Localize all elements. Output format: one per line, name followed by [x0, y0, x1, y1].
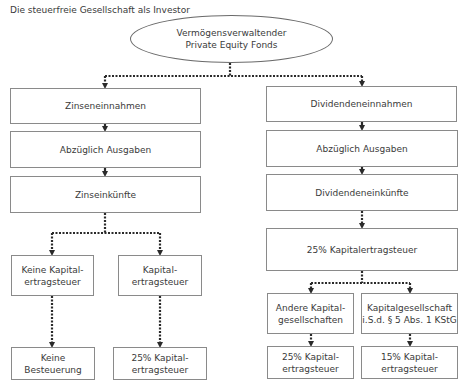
interest-expenses-box: Abzüglich Ausgaben	[10, 131, 201, 168]
other-corporations-box: Andere Kapital- gesellschaften	[267, 293, 354, 334]
root-fund-ellipse: Vermögensverwaltender Private Equity Fon…	[130, 15, 333, 63]
kstg-corporation-box: Kapitalgesellschaft i.S.d. § 5 Abs. 1 KS…	[361, 293, 458, 334]
no-taxation-box: Keine Besteuerung	[11, 347, 95, 380]
right-25pct-tax-box: 25% Kapital- ertragsteuer	[267, 346, 354, 379]
left-25pct-tax-box: 25% Kapital- ertragsteuer	[113, 347, 207, 380]
interest-income-box: Zinseneinnahmen	[10, 88, 201, 124]
dividend-expenses-box: Abzüglich Ausgaben	[266, 130, 458, 167]
no-withholding-box: Keine Kapital- ertragsteuer	[11, 255, 94, 296]
withholding-box: Kapital- ertragsteuer	[118, 255, 202, 296]
dividend-earnings-box: Dividendeneinkünfte	[266, 174, 458, 211]
dividend-withholding-box: 25% Kapitalertragsteuer	[266, 228, 458, 271]
dividend-income-box: Dividendeneinnahmen	[266, 86, 457, 122]
interest-earnings-box: Zinseinkünfte	[10, 176, 201, 213]
right-15pct-tax-box: 15% Kapital- ertragsteuer	[361, 346, 458, 379]
